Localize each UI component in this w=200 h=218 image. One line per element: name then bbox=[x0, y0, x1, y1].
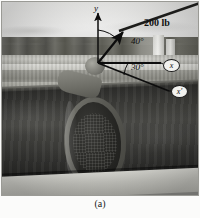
photograph: y 200 lb 40° 30° x x′ bbox=[1, 1, 199, 196]
y-axis-label: y bbox=[94, 4, 98, 13]
figure-container: y 200 lb 40° 30° x x′ (a) bbox=[0, 0, 200, 218]
x-prime-axis-label-tag: x′ bbox=[171, 85, 188, 98]
vector-diagram-overlay bbox=[1, 1, 199, 196]
x-axis-label-tag: x bbox=[163, 59, 180, 72]
figure-caption: (a) bbox=[0, 198, 200, 209]
angle-label-30: 30° bbox=[131, 63, 144, 72]
force-vector-arrow bbox=[98, 32, 123, 63]
force-magnitude-label: 200 lb bbox=[144, 18, 170, 28]
angle-label-40: 40° bbox=[131, 37, 144, 46]
